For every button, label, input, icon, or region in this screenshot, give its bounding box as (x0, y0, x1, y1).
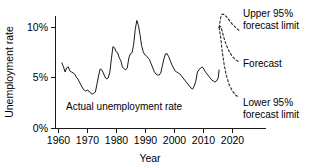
x-tick-label-1960: 1960 (47, 134, 71, 146)
series-actual-unemployment (62, 20, 219, 94)
series-lower-95-forecast-limit (219, 28, 239, 98)
series-upper-95-forecast-limit (219, 14, 239, 30)
annotations-group: Actual unemployment rate Upper 95% forec… (66, 8, 299, 120)
y-axis-group: 0% 5% 10% Unemployment rate (3, 16, 56, 134)
annotation-lower-limit-line2: forecast limit (243, 109, 299, 120)
annotation-lower-limit-line1: Lower 95% (243, 97, 293, 108)
x-axis-title: Year (139, 152, 161, 164)
x-tick-label-2000: 2000 (163, 134, 187, 146)
x-axis-group: 1960 1970 1980 1990 2000 2010 2020 Year (47, 129, 266, 165)
x-tick-label-1970: 1970 (76, 134, 100, 146)
annotation-actual-unemployment-rate: Actual unemployment rate (66, 101, 183, 112)
x-axis-ticks (59, 129, 233, 134)
y-tick-label-5: 5% (33, 71, 48, 83)
y-tick-label-10: 10% (27, 21, 48, 33)
x-tick-label-1980: 1980 (105, 134, 129, 146)
y-axis-ticks (51, 28, 56, 129)
annotation-upper-limit-line1: Upper 95% (243, 8, 293, 19)
unemployment-rate-chart: 0% 5% 10% Unemployment rate 1960 1970 19… (0, 0, 312, 168)
x-tick-label-2020: 2020 (221, 134, 245, 146)
series-group (62, 14, 239, 97)
x-tick-label-1990: 1990 (134, 134, 158, 146)
y-tick-label-0: 0% (33, 122, 48, 134)
x-tick-label-2010: 2010 (192, 134, 216, 146)
series-forecast (219, 26, 239, 61)
annotation-upper-limit-line2: forecast limit (243, 20, 299, 31)
y-axis-title: Unemployment rate (3, 26, 15, 118)
annotation-forecast-line1: Forecast (243, 58, 282, 69)
chart-container: 0% 5% 10% Unemployment rate 1960 1970 19… (0, 0, 312, 168)
